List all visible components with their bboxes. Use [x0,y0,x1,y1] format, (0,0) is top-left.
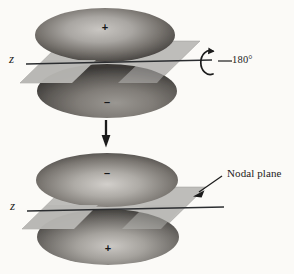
orbital-lobe-upper-bottom [36,153,178,207]
z-axis-label-top: z [9,52,14,65]
lobe-sign-upper-bottom: – [100,168,114,179]
nodal-plane-label: Nodal plane [227,168,282,179]
z-axis-label-bottom: z [10,199,15,212]
rotation-angle-label: 180° [232,55,253,66]
lobe-sign-upper-top: + [98,22,112,33]
diagram-bottom [22,153,224,265]
lobe-sign-lower-bottom: + [101,243,115,254]
orbital-rotation-figure: z + – 180° z – + Nodal plane [0,0,294,274]
figure-canvas [0,0,294,274]
lobe-sign-lower-top: – [100,97,114,108]
down-arrow-icon [102,120,111,148]
diagram-top [20,8,232,118]
rotation-arrow-icon [201,48,215,75]
orbital-lobe-upper-top [35,8,175,62]
